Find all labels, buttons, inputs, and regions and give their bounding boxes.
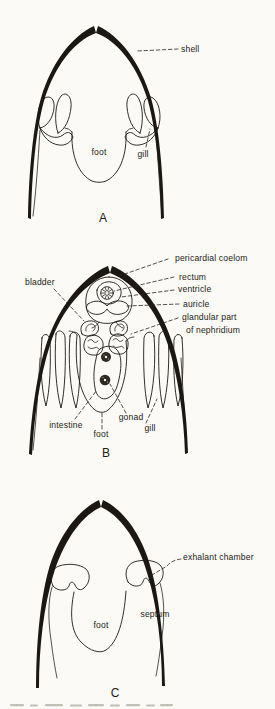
- shell-left-valve-c: [36, 500, 101, 688]
- panel-b: bladder pericardial coelom rectum ventri…: [25, 253, 247, 460]
- exhalant-chamber-left: [49, 564, 89, 678]
- rectum-section: [101, 287, 114, 300]
- pointer-exhalant-chamber: [152, 559, 181, 575]
- label-ventricle: ventricle: [178, 284, 211, 294]
- label-foot-c: foot: [94, 620, 109, 630]
- pointer-gill-a: [146, 129, 150, 147]
- label-exhalant-chamber: exhalant chamber: [183, 552, 254, 562]
- figure-canvas: shell foot gill A: [0, 0, 275, 709]
- label-auricle: auricle: [183, 299, 209, 309]
- label-rectum: rectum: [179, 272, 206, 282]
- label-gill-a: gill: [137, 149, 148, 159]
- pointer-pericardial-coelom: [119, 259, 168, 276]
- auricle-outline: [86, 301, 128, 315]
- label-gonad: gonad: [119, 412, 144, 422]
- label-gill-b: gill: [144, 423, 155, 433]
- label-glandular-part: glandular part: [182, 312, 237, 322]
- pointer-gonad: [110, 384, 126, 413]
- pointer-shell-a: [137, 49, 178, 51]
- intestine-sections: [100, 352, 111, 385]
- pointer-glandular-nephridium: [131, 318, 178, 334]
- label-foot-b: foot: [94, 429, 109, 439]
- septum-wall-left: [49, 587, 57, 678]
- bladder-left: [81, 321, 99, 336]
- label-foot-a: foot: [92, 147, 107, 157]
- panel-letter-c: C: [111, 686, 120, 700]
- label-intestine: intestine: [49, 420, 82, 430]
- figure-page: shell foot gill A: [0, 0, 275, 709]
- nephridium-gland-left: [84, 335, 103, 355]
- label-bladder: bladder: [25, 277, 55, 287]
- shell-right-valve-c: [101, 500, 165, 686]
- foot-outline-b: [69, 331, 134, 412]
- panel-letter-a: A: [99, 211, 107, 225]
- label-pericardial-coelom: pericardial coelom: [175, 253, 247, 263]
- shell-right-valve-a: [96, 26, 164, 219]
- cropped-caption-fragments: [10, 704, 173, 707]
- panel-a: shell foot gill A: [28, 26, 199, 225]
- panel-letter-b: B: [102, 446, 110, 460]
- label-shell-a: shell: [181, 44, 199, 54]
- label-septum: septum: [140, 609, 169, 619]
- pointer-gill-b: [146, 399, 157, 423]
- panel-c: exhalant chamber septum foot C: [36, 500, 254, 700]
- label-of-nephridium: of nephridium: [186, 325, 240, 335]
